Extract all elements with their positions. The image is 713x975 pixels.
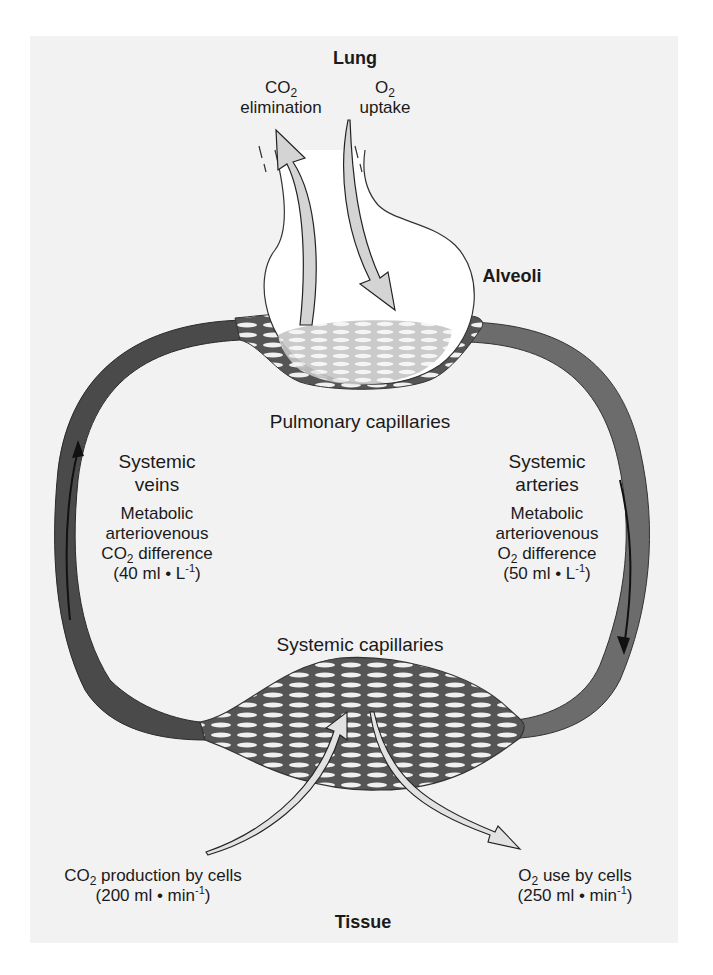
veins-gas: CO [101, 544, 127, 563]
co2-elimination-text: elimination [236, 98, 326, 118]
co2-symbol: CO [265, 78, 291, 97]
veins-line-2: arteriovenous [92, 524, 222, 544]
arteries-value-close: ) [585, 564, 591, 583]
arteries-value-sup: -1 [575, 562, 585, 574]
o2-use-label: O2 use by cells (250 ml • min-1) [500, 866, 650, 906]
arteries-title-1: Systemic [482, 450, 612, 473]
arteries-line-1: Metabolic [482, 504, 612, 524]
systemic-capillary-bed [200, 657, 524, 790]
o2-use-value-sup: -1 [617, 884, 627, 896]
co2-prod-gas: CO [64, 866, 90, 885]
o2-uptake-label: O2 uptake [350, 78, 420, 118]
arteries-diff: difference [517, 544, 596, 563]
co2-elimination-label: CO2 elimination [236, 78, 326, 118]
co2-prod-value-sup: -1 [195, 884, 205, 896]
systemic-capillaries-label: Systemic capillaries [250, 633, 470, 656]
veins-value-sup: -1 [185, 562, 195, 574]
arteries-title-2: arteries [482, 473, 612, 496]
veins-value: (40 ml • L [113, 564, 185, 583]
o2-use-gas: O [518, 866, 531, 885]
arteries-line-2: arteriovenous [482, 524, 612, 544]
veins-title-2: veins [92, 473, 222, 496]
co2-prod-value-close: ) [205, 886, 211, 905]
co2-prod-value: (200 ml • min [96, 886, 195, 905]
pulmonary-capillaries-label: Pulmonary capillaries [225, 410, 495, 433]
o2-use-text: use by cells [538, 866, 632, 885]
o2-symbol: O [375, 78, 388, 97]
veins-title-1: Systemic [92, 450, 222, 473]
arteries-gas: O [498, 544, 511, 563]
o2-use-value: (250 ml • min [518, 886, 617, 905]
veins-diff: difference [134, 544, 213, 563]
systemic-veins-block: Systemic veins Metabolic arteriovenous C… [92, 450, 222, 584]
veins-value-close: ) [195, 564, 201, 583]
o2-uptake-text: uptake [350, 98, 420, 118]
systemic-arteries-block: Systemic arteries Metabolic arteriovenou… [482, 450, 612, 584]
tissue-label: Tissue [318, 912, 408, 932]
co2-production-label: CO2 production by cells (200 ml • min-1) [58, 866, 248, 906]
o2-use-value-close: ) [627, 886, 633, 905]
arteries-value: (50 ml • L [503, 564, 575, 583]
co2-prod-text: production by cells [96, 866, 242, 885]
lung-title: Lung [300, 48, 410, 68]
veins-line-1: Metabolic [92, 504, 222, 524]
alveoli-label: Alveoli [462, 266, 562, 286]
